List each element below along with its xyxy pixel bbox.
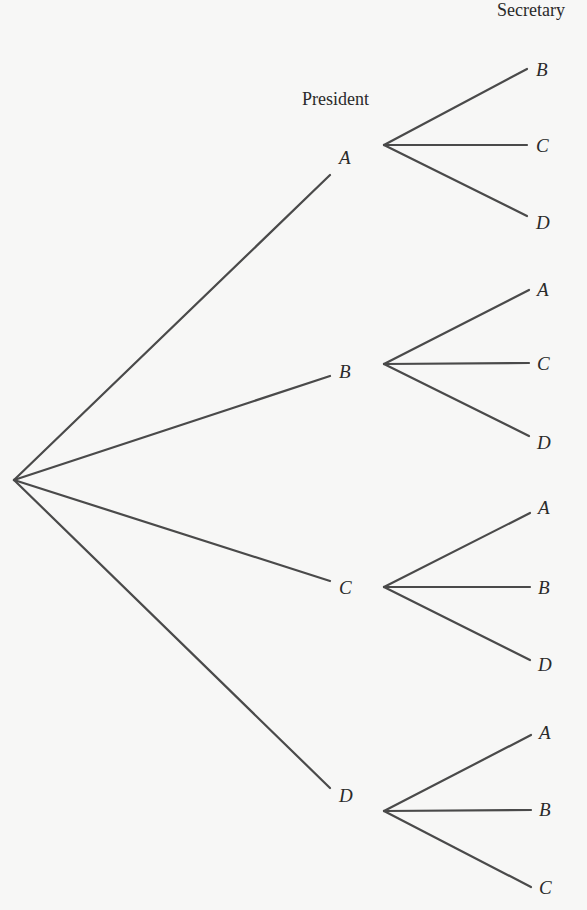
edge-root-to-president-c — [14, 480, 330, 581]
secretary-node-a-d: D — [535, 212, 550, 233]
edge-c-to-secretary-a — [384, 513, 530, 587]
president-header: President — [302, 89, 369, 109]
edge-d-to-secretary-a — [384, 735, 531, 811]
president-node-d: D — [338, 785, 353, 806]
secretary-node-b-c: C — [537, 353, 550, 374]
president-node-b: B — [339, 361, 351, 382]
edge-b-to-secretary-d — [384, 364, 529, 436]
edge-b-to-secretary-c — [384, 363, 529, 364]
secretary-node-c-d: D — [537, 654, 552, 675]
tree-labels: ABCDBACDCABDDABC — [337, 59, 552, 898]
secretary-node-b-a: A — [535, 279, 549, 300]
secretary-node-c-b: B — [538, 577, 550, 598]
secretary-node-d-b: B — [539, 799, 551, 820]
edge-root-to-president-a — [14, 175, 330, 480]
edge-d-to-secretary-b — [384, 810, 531, 811]
edge-d-to-secretary-c — [384, 811, 531, 887]
secretary-node-c-a: A — [536, 497, 550, 518]
secretary-node-d-c: C — [539, 877, 552, 898]
edge-c-to-secretary-d — [384, 587, 530, 660]
edge-a-to-secretary-b — [384, 69, 527, 145]
secretary-node-a-c: C — [536, 135, 549, 156]
tree-diagram: President Secretary ABCDBACDCABDDABC — [0, 0, 587, 910]
edge-root-to-president-d — [14, 480, 330, 788]
secretary-node-d-a: A — [537, 722, 551, 743]
edge-a-to-secretary-d — [384, 145, 527, 216]
secretary-node-b-d: D — [536, 432, 551, 453]
edge-root-to-president-b — [14, 376, 330, 480]
secretary-node-a-b: B — [536, 59, 548, 80]
president-node-c: C — [339, 577, 352, 598]
secretary-header: Secretary — [497, 0, 565, 20]
tree-edges — [14, 69, 531, 887]
president-node-a: A — [337, 147, 351, 168]
edge-b-to-secretary-a — [384, 290, 529, 364]
